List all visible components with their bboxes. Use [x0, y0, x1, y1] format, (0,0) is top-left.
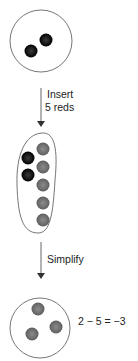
result-set — [10, 298, 70, 358]
initial-set — [10, 10, 72, 72]
red-chip — [32, 303, 45, 316]
combined-set — [17, 133, 56, 233]
red-chip — [50, 321, 63, 334]
red-chip — [37, 214, 50, 227]
red-chip — [37, 161, 50, 174]
red-chip — [37, 179, 50, 192]
black-chip — [25, 45, 38, 58]
result-equation: 2 − 5 = −3 — [78, 315, 126, 328]
insert-label-line1: Insert — [47, 88, 73, 101]
simplify-label: Simplify — [47, 253, 84, 266]
arrow-simplify — [37, 242, 45, 279]
combined-set-outline — [17, 133, 56, 233]
arrow-insert — [37, 88, 45, 127]
red-chip — [37, 143, 50, 156]
black-chip — [40, 34, 53, 47]
insert-label-line2: 5 reds — [45, 101, 74, 114]
black-chip — [22, 152, 35, 165]
red-chip — [26, 328, 39, 341]
black-chip — [22, 169, 35, 182]
red-chip — [37, 197, 50, 210]
diagram-canvas — [0, 0, 138, 361]
